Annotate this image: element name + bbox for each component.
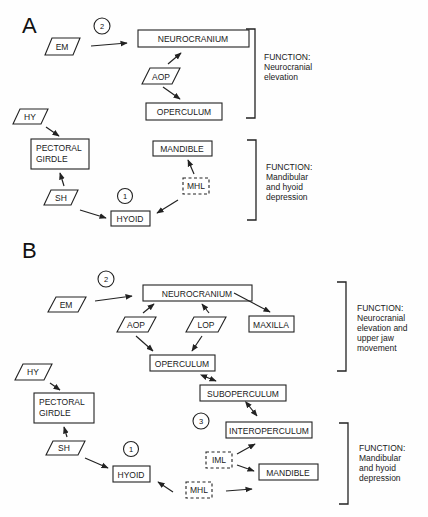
muscle-hy: HY — [13, 109, 48, 124]
muscle-hy: HY — [15, 364, 52, 380]
svg-text:OPERCULUM: OPERCULUM — [155, 359, 209, 369]
panel-a-label: A — [22, 13, 37, 38]
arrow-sh-hyoid — [80, 210, 106, 218]
svg-text:OPERCULUM: OPERCULUM — [157, 107, 211, 117]
svg-text:FUNCTION:: FUNCTION: — [359, 443, 405, 453]
arrow-operculum-suboperculum — [206, 377, 216, 381]
coupling-1-marker: 1 — [124, 442, 139, 457]
bone-mandible: MANDIBLE — [259, 464, 318, 480]
bone-suboperculum: SUBOPERCULUM — [200, 385, 286, 401]
svg-text:INTEROPERCULUM: INTEROPERCULUM — [229, 426, 309, 436]
svg-text:Neurocranial: Neurocranial — [357, 313, 405, 323]
svg-text:AOP: AOP — [152, 72, 170, 82]
arrow-iml-mandible — [237, 465, 254, 471]
arrow-sh-hyoid — [85, 458, 108, 468]
svg-text:Mandibular: Mandibular — [266, 172, 308, 182]
svg-text:PECTORAL: PECTORAL — [36, 143, 82, 153]
arrow-hy-pectoral — [50, 383, 60, 390]
muscle-em: EM — [45, 38, 80, 55]
panel-a: A 2 EM NEUROCRANIUM AOP OPERCULUM — [13, 13, 312, 226]
svg-text:MHL: MHL — [190, 485, 208, 495]
svg-text:AOP: AOP — [127, 320, 145, 330]
arrow-mhl-mandible — [226, 489, 252, 491]
arrow-aop-operculum — [136, 336, 153, 351]
svg-text:2: 2 — [104, 275, 108, 284]
svg-text:2: 2 — [100, 22, 104, 31]
svg-text:GIRDLE: GIRDLE — [39, 408, 71, 418]
bone-maxilla: MAXILLA — [249, 316, 294, 332]
svg-text:MAXILLA: MAXILLA — [253, 320, 289, 330]
ligament-mhl: MHL — [186, 482, 212, 498]
ligament-mhl: MHL — [183, 178, 209, 194]
svg-text:movement: movement — [357, 343, 397, 353]
bone-operculum: OPERCULUM — [146, 103, 222, 120]
svg-text:SH: SH — [55, 193, 67, 203]
svg-text:upper jaw: upper jaw — [357, 333, 395, 343]
coupling-1-marker: 1 — [118, 189, 133, 204]
svg-text:MHL: MHL — [187, 181, 205, 191]
svg-text:HY: HY — [27, 367, 39, 377]
bone-pectoral-girdle: PECTORAL GIRDLE — [34, 393, 94, 423]
bone-neurocranium: NEUROCRANIUM — [138, 30, 249, 47]
svg-text:FUNCTION:: FUNCTION: — [266, 162, 312, 172]
arrow-aop-neurocranium — [143, 304, 154, 313]
arrow-em-neurocranium — [91, 43, 127, 46]
svg-text:1: 1 — [129, 445, 133, 454]
arrow-aop-operculum — [163, 87, 180, 99]
svg-text:MANDIBLE: MANDIBLE — [160, 144, 204, 154]
bone-hyoid: HYOID — [113, 466, 150, 482]
coupling-3-marker: 3 — [193, 413, 209, 429]
svg-text:LOP: LOP — [197, 320, 214, 330]
svg-text:MANDIBLE: MANDIBLE — [266, 468, 310, 478]
arrow-hy-pectoral — [46, 127, 59, 136]
muscle-sh: SH — [46, 441, 85, 455]
bone-hyoid: HYOID — [111, 211, 150, 226]
svg-text:GIRDLE: GIRDLE — [36, 154, 68, 164]
arrow-lop-operculum — [192, 336, 202, 351]
arrow-aop-neurocranium — [168, 53, 181, 64]
muscle-aop: AOP — [117, 317, 156, 332]
bone-pectoral-girdle: PECTORAL GIRDLE — [31, 139, 89, 169]
muscle-lop: LOP — [186, 317, 226, 332]
svg-text:depression: depression — [266, 192, 308, 202]
function-mandibular-hyoid-depression: FUNCTION: Mandibular and hyoid depressio… — [266, 162, 312, 202]
function-neurocranial-elevation-upper-jaw: FUNCTION: Neurocranial elevation and upp… — [357, 303, 408, 353]
jaw-mechanics-diagram: A 2 EM NEUROCRANIUM AOP OPERCULUM — [0, 0, 428, 517]
arrow-lop-neurocranium — [202, 304, 209, 313]
bracket-function-2 — [247, 140, 256, 220]
svg-text:HY: HY — [24, 112, 36, 122]
svg-text:3: 3 — [199, 417, 203, 426]
arrow-mhl-hyoid — [157, 200, 178, 213]
svg-text:FUNCTION:: FUNCTION: — [357, 303, 403, 313]
bone-mandible: MANDIBLE — [153, 141, 212, 156]
svg-text:NEUROCRANIUM: NEUROCRANIUM — [162, 289, 232, 299]
svg-text:EM: EM — [56, 42, 69, 52]
arrow-suboperculum-interoperculum — [249, 406, 257, 416]
panel-b: B 2 EM NEUROCRANIUM AOP LOP MAXILLA O — [15, 238, 408, 504]
svg-text:elevation and: elevation and — [357, 323, 408, 333]
svg-text:NEUROCRANIUM: NEUROCRANIUM — [158, 34, 228, 44]
arrow-em-neurocranium — [95, 296, 132, 301]
function-mandibular-hyoid-depression: FUNCTION: Mandibular and hyoid depressio… — [359, 443, 405, 483]
svg-text:PECTORAL: PECTORAL — [39, 397, 85, 407]
svg-text:HYOID: HYOID — [117, 214, 144, 224]
muscle-sh: SH — [44, 190, 78, 205]
svg-text:and hyoid: and hyoid — [359, 463, 396, 473]
bone-operculum: OPERCULUM — [150, 355, 215, 371]
arrow-mhl-mandible — [188, 160, 194, 174]
muscle-aop: AOP — [142, 68, 180, 84]
svg-text:1: 1 — [123, 192, 127, 201]
bracket-function-2 — [339, 423, 348, 504]
svg-text:EM: EM — [60, 300, 73, 310]
svg-text:SH: SH — [58, 443, 70, 453]
coupling-2-marker: 2 — [98, 271, 114, 287]
svg-text:elevation: elevation — [264, 72, 298, 82]
arrow-iml-interoperculum — [237, 444, 255, 454]
bone-interoperculum: INTEROPERCULUM — [226, 422, 312, 438]
ligament-iml: IML — [206, 452, 232, 468]
bracket-function-1 — [337, 282, 346, 371]
panel-b-label: B — [22, 238, 37, 263]
arrow-sh-pectoral — [60, 173, 64, 186]
svg-text:SUBOPERCULUM: SUBOPERCULUM — [207, 389, 279, 399]
svg-text:Mandibular: Mandibular — [359, 453, 401, 463]
